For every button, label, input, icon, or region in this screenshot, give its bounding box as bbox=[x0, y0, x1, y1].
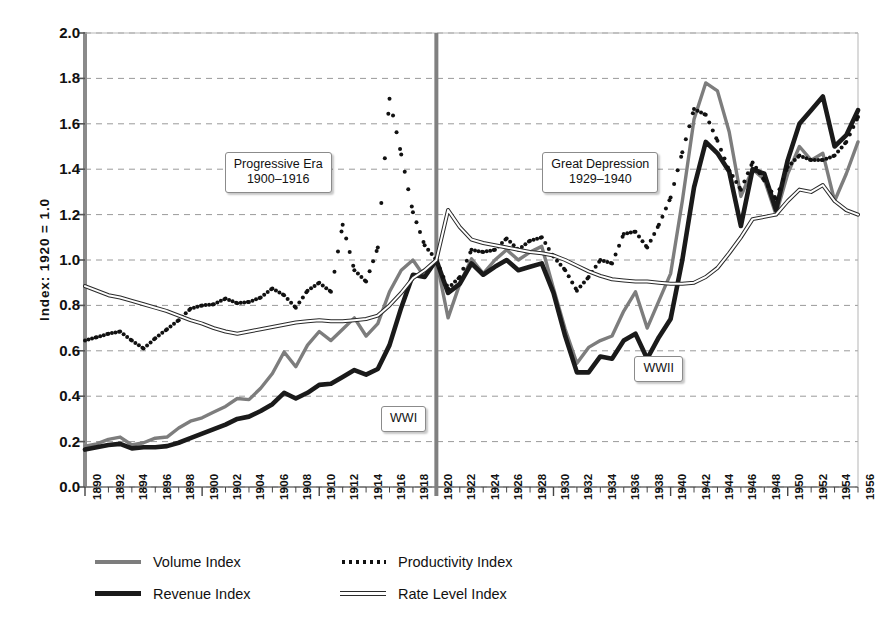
x-axis-tick-label: 1916 bbox=[395, 474, 407, 500]
x-axis-tick-label: 1922 bbox=[465, 474, 477, 500]
x-axis-tick-label: 1934 bbox=[606, 474, 618, 500]
x-axis-tick-label: 1954 bbox=[840, 474, 852, 500]
x-axis-tick-labels: 1890189218941896189819001902190419061908… bbox=[0, 0, 888, 630]
x-axis-tick-label: 1944 bbox=[723, 474, 735, 500]
annotation-line: WWII bbox=[643, 361, 674, 376]
annotation-line: Progressive Era bbox=[234, 157, 323, 172]
legend-item-volume-index: Volume Index bbox=[95, 552, 241, 572]
x-axis-tick-label: 1914 bbox=[372, 474, 384, 500]
x-axis-tick-label: 1940 bbox=[676, 474, 688, 500]
x-axis-tick-label: 1930 bbox=[559, 474, 571, 500]
annotation-great-depression: Great Depression1929–1940 bbox=[542, 152, 658, 193]
x-axis-tick-label: 1956 bbox=[864, 474, 876, 500]
rate-level-index-line-icon bbox=[340, 588, 386, 600]
chart-figure: Index: 1920 = 1.0 2.01.81.61.41.21.00.80… bbox=[0, 0, 888, 630]
x-axis-tick-label: 1904 bbox=[254, 474, 266, 500]
x-axis-tick-label: 1892 bbox=[114, 474, 126, 500]
x-axis-tick-label: 1936 bbox=[629, 474, 641, 500]
x-axis-tick-label: 1938 bbox=[653, 474, 665, 500]
x-axis-tick-label: 1896 bbox=[161, 474, 173, 500]
legend-item-rate-level-index: Rate Level Index bbox=[340, 584, 507, 604]
x-axis-tick-label: 1910 bbox=[325, 474, 337, 500]
x-axis-tick-label: 1942 bbox=[700, 474, 712, 500]
x-axis-tick-label: 1898 bbox=[184, 474, 196, 500]
x-axis-tick-label: 1918 bbox=[418, 474, 430, 500]
annotation-wwi: WWI bbox=[381, 406, 426, 432]
x-axis-tick-label: 1890 bbox=[91, 474, 103, 500]
annotation-wwii: WWII bbox=[634, 356, 683, 382]
legend-label-productivity-index: Productivity Index bbox=[398, 554, 512, 570]
x-axis-tick-label: 1906 bbox=[278, 474, 290, 500]
x-axis-tick-label: 1900 bbox=[208, 474, 220, 500]
legend-item-revenue-index: Revenue Index bbox=[95, 584, 251, 604]
x-axis-tick-label: 1928 bbox=[536, 474, 548, 500]
x-axis-tick-label: 1924 bbox=[489, 474, 501, 500]
annotation-progressive-era: Progressive Era1900–1916 bbox=[225, 152, 332, 193]
legend-label-volume-index: Volume Index bbox=[153, 554, 241, 570]
annotation-line: Great Depression bbox=[551, 157, 649, 172]
legend-label-rate-level-index: Rate Level Index bbox=[398, 586, 507, 602]
chart-legend: Volume Index Revenue Index Productivity … bbox=[60, 552, 760, 614]
x-axis-tick-label: 1950 bbox=[793, 474, 805, 500]
x-axis-tick-label: 1920 bbox=[442, 474, 454, 500]
x-axis-tick-label: 1902 bbox=[231, 474, 243, 500]
annotation-line: 1900–1916 bbox=[234, 172, 323, 187]
x-axis-tick-label: 1912 bbox=[348, 474, 360, 500]
revenue-index-line-icon bbox=[95, 588, 141, 600]
x-axis-tick-label: 1932 bbox=[582, 474, 594, 500]
x-axis-tick-label: 1908 bbox=[301, 474, 313, 500]
x-axis-tick-label: 1952 bbox=[817, 474, 829, 500]
x-axis-tick-label: 1926 bbox=[512, 474, 524, 500]
annotation-line: 1929–1940 bbox=[551, 172, 649, 187]
annotation-line: WWI bbox=[390, 411, 417, 426]
legend-label-revenue-index: Revenue Index bbox=[153, 586, 251, 602]
legend-item-productivity-index: Productivity Index bbox=[340, 552, 512, 572]
x-axis-tick-label: 1894 bbox=[137, 474, 149, 500]
productivity-index-line-icon bbox=[340, 556, 386, 568]
x-axis-tick-label: 1946 bbox=[746, 474, 758, 500]
x-axis-tick-label: 1948 bbox=[770, 474, 782, 500]
volume-index-line-icon bbox=[95, 556, 141, 568]
